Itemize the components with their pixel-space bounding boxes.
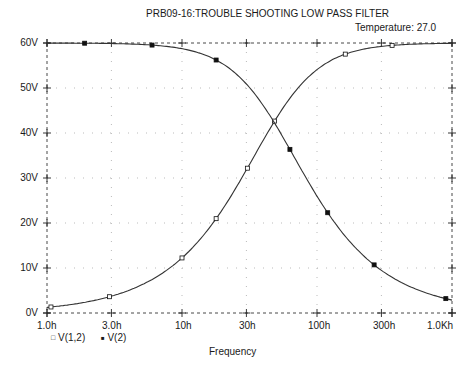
hollow-square-marker-icon [107, 295, 111, 299]
filled-square-marker-icon [372, 263, 376, 267]
hollow-square-marker-icon [180, 256, 184, 260]
plot-area [0, 0, 475, 367]
filled-square-marker-icon [214, 58, 218, 62]
filled-square-marker-icon [150, 43, 154, 47]
hollow-square-marker-icon [245, 166, 249, 170]
hollow-square-marker-icon [214, 217, 218, 221]
filled-square-marker-icon [288, 147, 292, 151]
filled-square-marker-icon [444, 297, 448, 301]
hollow-square-marker-icon [49, 305, 53, 309]
filled-square-marker-icon [83, 41, 87, 45]
curve-v2 [47, 43, 452, 300]
hollow-square-marker-icon [390, 43, 394, 47]
filled-square-marker-icon [326, 211, 330, 215]
curve-v12 [47, 43, 452, 307]
hollow-square-marker-icon [343, 52, 347, 56]
